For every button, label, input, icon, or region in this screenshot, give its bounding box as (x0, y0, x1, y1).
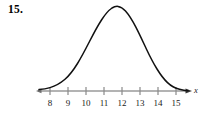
tick-label-14: 14 (154, 98, 164, 108)
tick-label-12: 12 (118, 98, 127, 108)
tick-label-11: 11 (100, 98, 109, 108)
normal-curve-path (39, 6, 188, 90)
x-axis-tick-labels: 8 9 10 11 12 13 14 15 (48, 98, 181, 108)
tick-label-9: 9 (66, 98, 71, 108)
tick-label-10: 10 (82, 98, 92, 108)
tick-label-15: 15 (172, 98, 182, 108)
bell-curve-plot: 8 9 10 11 12 13 14 15 x (0, 0, 207, 114)
x-axis-label: x (193, 85, 198, 95)
figure-container: 15. 8 9 10 11 12 13 (0, 0, 207, 114)
tick-label-8: 8 (48, 98, 53, 108)
x-axis-group (36, 89, 192, 94)
tick-label-13: 13 (136, 98, 146, 108)
